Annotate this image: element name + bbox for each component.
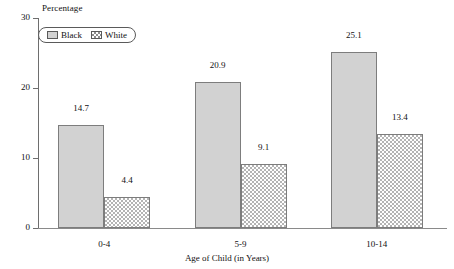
bar-value-label: 25.1 <box>331 30 377 40</box>
bar-white-0-4 <box>104 197 150 228</box>
legend-swatch-white-icon <box>91 31 102 39</box>
x-axis-label-10-14: 10-14 <box>331 239 423 249</box>
legend-entry-white: White <box>91 30 127 40</box>
legend-label-white: White <box>105 30 127 40</box>
bar-black-10-14 <box>331 52 377 228</box>
x-axis-title: Age of Child (in Years) <box>0 253 454 263</box>
chart-legend: Black White <box>38 27 136 43</box>
bar-black-0-4 <box>58 125 104 228</box>
bar-black-5-9 <box>195 82 241 228</box>
bar-white-5-9 <box>241 164 287 228</box>
x-axis-line <box>38 228 447 229</box>
legend-entry-black: Black <box>47 30 82 40</box>
y-axis-tick-label: 10 <box>8 152 30 162</box>
plot-area: 14.74.420.99.125.113.4 <box>38 18 447 228</box>
bar-value-label: 20.9 <box>195 60 241 70</box>
legend-label-black: Black <box>61 30 82 40</box>
legend-swatch-black-icon <box>47 31 58 39</box>
x-axis-label-5-9: 5-9 <box>195 239 287 249</box>
x-axis-label-0-4: 0-4 <box>58 239 150 249</box>
bar-value-label: 4.4 <box>104 175 150 185</box>
y-axis-tick-label: 0 <box>8 222 30 232</box>
bar-value-label: 14.7 <box>58 103 104 113</box>
y-axis-title: Percentage <box>42 3 82 13</box>
y-axis-tick-label: 20 <box>8 82 30 92</box>
y-axis-tick <box>33 228 38 229</box>
bar-value-label: 9.1 <box>241 142 287 152</box>
y-axis-tick-label: 30 <box>8 12 30 22</box>
bar-white-10-14 <box>377 134 423 228</box>
bar-value-label: 13.4 <box>377 112 423 122</box>
bar-chart: Percentage 0102030 14.74.420.99.125.113.… <box>0 0 454 269</box>
